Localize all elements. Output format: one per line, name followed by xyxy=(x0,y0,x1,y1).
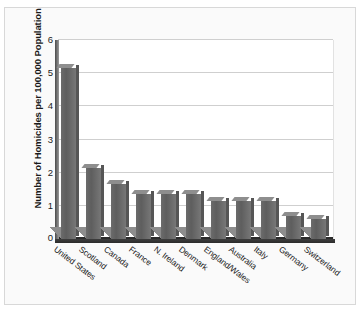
bar-top-face xyxy=(281,212,299,216)
bar-top-face xyxy=(106,180,124,184)
bar-side-face xyxy=(326,216,329,236)
bar-top-face xyxy=(231,197,249,201)
bar-slot xyxy=(308,40,333,239)
bar-top-face xyxy=(306,215,324,219)
bar-slot xyxy=(108,40,133,239)
x-tick-label: Switzerland xyxy=(302,244,342,278)
bar-depth-wedge xyxy=(249,227,261,239)
bar-slot xyxy=(133,40,158,239)
bar-top-face xyxy=(256,197,274,201)
bar-slot xyxy=(258,40,283,239)
y-axis-title: Number of Homicides per 100,000 Populati… xyxy=(32,19,43,209)
bar-slot xyxy=(58,40,83,239)
bar-top-face xyxy=(131,190,149,194)
bar[interactable] xyxy=(311,219,326,239)
x-axis-labels-group: United StatesScotlandCanadaFranceN. Irel… xyxy=(58,244,333,314)
bar-slot xyxy=(183,40,208,239)
bar-side-face xyxy=(76,65,79,236)
bar-depth-wedge xyxy=(74,227,86,239)
bar-slot xyxy=(208,40,233,239)
bar-top-face xyxy=(206,197,224,201)
bar-slot xyxy=(83,40,108,239)
bar-depth-wedge xyxy=(49,227,61,239)
y-tick-label-5: 5 xyxy=(48,67,53,78)
figure-frame: Number of Homicides per 100,000 Populati… xyxy=(4,7,356,305)
bar-depth-wedge xyxy=(149,227,161,239)
y-tick-label-2: 2 xyxy=(48,166,53,177)
bar-top-face xyxy=(156,190,174,194)
bar-depth-wedge xyxy=(274,227,286,239)
bar-slot xyxy=(283,40,308,239)
x-tick-label: Italy xyxy=(252,244,270,261)
bar-depth-wedge xyxy=(124,227,136,239)
x-tick-label: France xyxy=(127,244,154,268)
bar-side-face xyxy=(101,165,104,236)
bar-slot xyxy=(158,40,183,239)
bar-depth-wedge xyxy=(199,227,211,239)
plot-wrapper: 0123456 xyxy=(45,34,335,242)
bar[interactable] xyxy=(61,68,76,239)
y-tick-label-6: 6 xyxy=(48,34,53,45)
bar-slot xyxy=(233,40,258,239)
bar-depth-wedge xyxy=(99,227,111,239)
bar-top-face xyxy=(81,164,99,168)
bar-depth-wedge xyxy=(299,227,311,239)
bar-depth-wedge xyxy=(224,227,236,239)
y-tick-label-3: 3 xyxy=(48,133,53,144)
bar-top-face xyxy=(56,64,74,68)
y-tick-label-1: 1 xyxy=(48,199,53,210)
bar-depth-wedge xyxy=(174,227,186,239)
bars-group xyxy=(58,40,333,239)
bar-top-face xyxy=(181,190,199,194)
y-tick-label-4: 4 xyxy=(48,100,53,111)
x-axis-floor xyxy=(55,239,335,243)
chart-figure: Number of Homicides per 100,000 Populati… xyxy=(0,0,364,324)
